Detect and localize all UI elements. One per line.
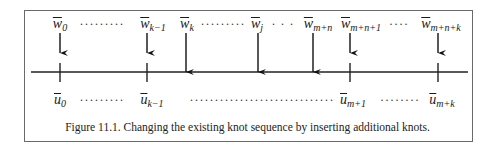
- old-knot-label-1: uk−1: [140, 93, 163, 111]
- old-knot-label-2: um+1: [340, 93, 366, 111]
- new-knot-label-0: w0: [53, 17, 67, 35]
- new-knot-label-6: wm+n+k: [421, 17, 461, 35]
- inserted-knot-arrows: [60, 33, 438, 72]
- old-knot-label-0: u0: [54, 93, 66, 111]
- new-knot-label-2: wk: [180, 17, 194, 35]
- new-knot-label-3: wj: [251, 17, 263, 35]
- old-knot-label-3: um+k: [429, 93, 454, 111]
- new-knot-label-5: wm+n+1: [341, 17, 381, 35]
- ellipsis-bottom-0: ·········: [80, 93, 125, 108]
- ellipsis-top-2: · · ·: [272, 17, 295, 32]
- ellipsis-bottom-1: ·····························: [190, 93, 335, 108]
- new-knot-label-4: wm+n: [304, 17, 332, 35]
- ellipsis-bottom-2: ········: [380, 93, 420, 108]
- new-knot-label-1: wk−1: [140, 17, 166, 35]
- ellipsis-top-1: ·········: [201, 17, 246, 32]
- figure-caption: Figure 11.1. Changing the existing knot …: [0, 121, 495, 133]
- ellipsis-top-0: ·········: [80, 17, 125, 32]
- ellipsis-top-3: ····: [389, 17, 409, 32]
